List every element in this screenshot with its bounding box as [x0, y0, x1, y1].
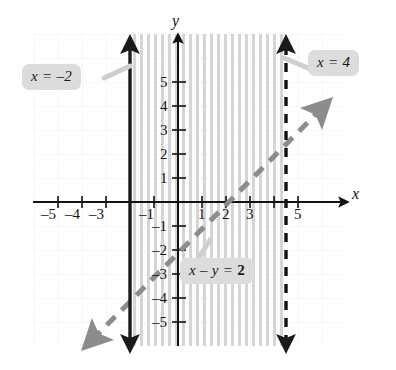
- y-tick-label-2: 2: [160, 147, 168, 162]
- y-tick-label-1: 1: [160, 171, 168, 186]
- y-axis-label: y: [172, 12, 179, 30]
- y-tick-label-3: 3: [160, 123, 168, 138]
- y-tick-label-5: 5: [160, 75, 168, 90]
- x-tick-label-5: 5: [294, 207, 302, 222]
- y-tick-label--3: –3: [152, 267, 167, 282]
- x-tick-label-2: 2: [222, 207, 230, 222]
- x-tick-label--3: –3: [89, 207, 104, 222]
- y-tick-label--2: –2: [152, 243, 167, 258]
- callout-equation-prefix: x – y =: [189, 262, 237, 278]
- callout-x-minus-y-equals-2: x – y = 2: [180, 258, 254, 284]
- callout-x-equals-neg-2: x = –2: [22, 64, 81, 90]
- y-tick-label-4: 4: [160, 99, 168, 114]
- x-axis-label: x: [352, 185, 359, 203]
- graph-figure: y x –5 –4 –3 –1 1 2 3 5 5 4 3 2 1 –1 –2 …: [0, 0, 396, 370]
- y-tick-label--1: –1: [152, 219, 167, 234]
- y-tick-label--5: –5: [152, 315, 167, 330]
- x-tick-label--5: –5: [41, 207, 56, 222]
- x-tick-label-1: 1: [198, 207, 206, 222]
- callout-equation-value: 2: [237, 262, 245, 278]
- callout-x-equals-4: x = 4: [308, 50, 359, 76]
- x-tick-label--4: –4: [65, 207, 80, 222]
- x-tick-label-3: 3: [246, 207, 254, 222]
- y-tick-label--4: –4: [152, 291, 167, 306]
